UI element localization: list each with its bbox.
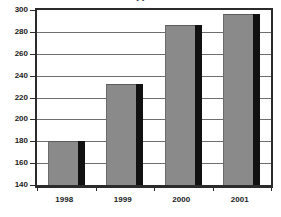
plot-area: [35, 8, 273, 187]
bar-shadow: [195, 25, 202, 185]
y-axis-tick-label: 140: [0, 181, 28, 189]
y-axis-tick-label: 260: [0, 50, 28, 58]
bar: [223, 14, 253, 185]
x-axis-tick-mark: [96, 187, 97, 191]
x-axis-category-label: 2001: [211, 195, 270, 205]
x-axis-category-label: 1999: [94, 195, 153, 205]
bar-shadow: [253, 14, 260, 185]
x-axis-tick-mark: [37, 187, 38, 191]
y-axis-labels: 300280260240220200180160140: [0, 8, 28, 192]
bar-shadow: [136, 84, 143, 185]
x-axis-tick-mark: [213, 187, 214, 191]
bar-group: [165, 25, 202, 185]
y-axis-tick-label: 180: [0, 137, 28, 145]
x-axis-tick-mark: [154, 187, 155, 191]
bar: [165, 25, 195, 185]
bar-chart: ( ) 300280260240220200180160140 19981999…: [0, 0, 281, 217]
y-axis-tick-label: 280: [0, 28, 28, 36]
x-axis-labels: 1998199920002001: [35, 195, 273, 209]
bar-shadow: [78, 141, 85, 185]
plot-inner: [37, 10, 271, 185]
chart-title-text: ( ): [0, 0, 281, 1]
bar: [106, 84, 136, 185]
x-axis-ticks: [35, 187, 273, 192]
bar: [48, 141, 78, 185]
y-axis-tick-label: 160: [0, 159, 28, 167]
y-axis-tick-label: 220: [0, 94, 28, 102]
bar-group: [48, 141, 85, 185]
bar-group: [106, 84, 143, 185]
x-axis-category-label: 2000: [152, 195, 211, 205]
y-axis-tick-label: 300: [0, 6, 28, 14]
y-axis-tick-label: 200: [0, 115, 28, 123]
bar-group: [223, 14, 260, 185]
chart-title-clipped: ( ): [0, 0, 281, 8]
x-axis-category-label: 1998: [35, 195, 94, 205]
y-axis-tick-label: 240: [0, 72, 28, 80]
x-axis-tick-mark: [271, 187, 272, 191]
